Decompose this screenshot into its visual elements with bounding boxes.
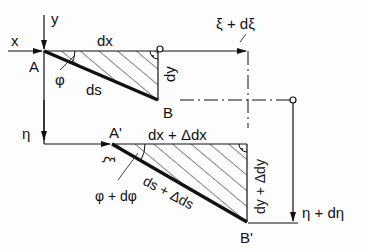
dy-delta-label: dy + Δdy xyxy=(252,159,268,214)
point-b-prime-label: B' xyxy=(240,229,253,246)
dx-label: dx xyxy=(97,32,113,49)
eta-label: η xyxy=(22,125,30,142)
point-a-label: A xyxy=(29,58,39,75)
dx-delta-label: dx + Δdx xyxy=(148,126,207,143)
y-axis-label: y xyxy=(51,10,59,27)
deformation-diagram: x y A dx φ ds dy B ξ + dξ η A' dx + Δdx … xyxy=(0,0,367,252)
xi-label: ξ xyxy=(101,156,118,163)
diagram-svg: x y A dx φ ds dy B ξ + dξ η A' dx + Δdx … xyxy=(0,0,367,252)
phi-label: φ xyxy=(55,71,65,88)
phi-dphi-label: φ + dφ xyxy=(95,188,137,204)
eta-plus-deta-label: η + dη xyxy=(302,204,344,221)
dy-label: dy xyxy=(161,66,178,82)
ds-label: ds xyxy=(86,81,102,98)
x-axis-label: x xyxy=(11,32,19,49)
xi-plus-dxi-label: ξ + dξ xyxy=(216,15,255,32)
point-b-label: B xyxy=(163,104,173,121)
point-a-prime-label: A' xyxy=(109,124,122,141)
deformed-triangle xyxy=(112,144,247,222)
hinge-circle xyxy=(157,46,163,52)
